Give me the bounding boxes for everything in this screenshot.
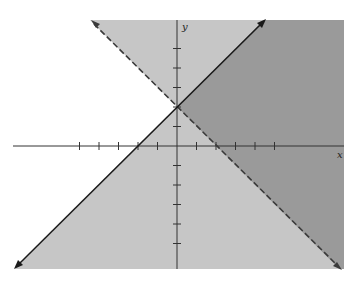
- inequality-graph: x y: [0, 0, 358, 284]
- x-axis-label: x: [337, 149, 343, 160]
- shaded-regions: [15, 20, 344, 269]
- y-axis-label: y: [181, 21, 188, 32]
